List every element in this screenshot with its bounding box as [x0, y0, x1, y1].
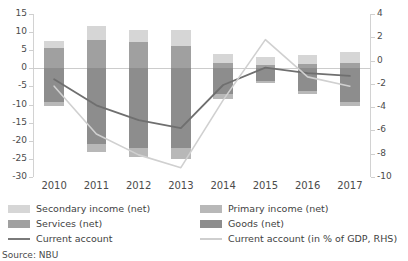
right-tick-label: 2 — [377, 32, 383, 41]
right-tick-label: 0 — [377, 56, 383, 65]
legend-item-primary-income[interactable]: Primary income (net) — [200, 203, 329, 214]
legend-item-current-account[interactable]: Current account — [8, 233, 113, 244]
left-tick-label: 0 — [21, 63, 27, 72]
x-tick-label: 2015 — [253, 180, 278, 192]
right-tick-mark — [371, 154, 375, 155]
legend-label: Current account (in % of GDP, RHS) — [228, 233, 397, 244]
legend-item-services[interactable]: Services (net) — [8, 218, 102, 229]
legend-swatch-icon — [200, 205, 222, 213]
chart-figure: 151050-5-10-15-20-25-30 420-2-4-6-8-10 2… — [0, 0, 408, 261]
right-tick-label: -6 — [377, 125, 386, 134]
legend-swatch-icon — [8, 220, 30, 228]
right-tick-mark — [371, 130, 375, 131]
x-tick-label: 2013 — [168, 180, 193, 192]
right-tick-label: -4 — [377, 102, 386, 111]
right-tick-label: 4 — [377, 9, 383, 18]
right-tick-label: -10 — [377, 172, 392, 181]
right-tick-mark — [371, 177, 375, 178]
right-tick-mark — [371, 84, 375, 85]
right-tick-label: -2 — [377, 79, 386, 88]
legend-line-icon — [8, 238, 30, 240]
left-tick-label: -5 — [18, 81, 27, 90]
left-tick-label: 10 — [16, 27, 27, 36]
left-tick-mark — [29, 177, 33, 178]
legend-label: Primary income (net) — [228, 203, 329, 214]
plot-area: 151050-5-10-15-20-25-30 420-2-4-6-8-10 — [33, 14, 371, 177]
legend-label: Current account — [36, 233, 113, 244]
right-tick-mark — [371, 37, 375, 38]
right-tick-label: -8 — [377, 149, 386, 158]
x-axis-labels: 20102011201220132014201520162017 — [33, 180, 371, 194]
legend-item-secondary-income[interactable]: Secondary income (net) — [8, 203, 150, 214]
x-tick-label: 2016 — [295, 180, 320, 192]
legend-label: Goods (net) — [228, 218, 284, 229]
right-tick-mark — [371, 61, 375, 62]
line-series-group — [33, 14, 371, 177]
left-tick-label: -15 — [12, 118, 27, 127]
legend-swatch-icon — [8, 205, 30, 213]
line-path — [54, 40, 350, 168]
x-tick-label: 2012 — [126, 180, 151, 192]
chart-legend: Secondary income (net) Services (net) Cu… — [8, 203, 400, 247]
x-tick-label: 2011 — [84, 180, 109, 192]
x-tick-label: 2014 — [210, 180, 235, 192]
left-tick-label: -20 — [12, 136, 27, 145]
legend-line-icon — [200, 238, 222, 240]
left-tick-label: 5 — [21, 45, 27, 54]
right-tick-mark — [371, 107, 375, 108]
x-tick-label: 2010 — [41, 180, 66, 192]
source-note: Source: NBU — [2, 250, 58, 260]
legend-item-current-account-pct-gdp[interactable]: Current account (in % of GDP, RHS) — [200, 233, 397, 244]
right-tick-mark — [371, 14, 375, 15]
legend-item-goods[interactable]: Goods (net) — [200, 218, 284, 229]
left-tick-label: 15 — [16, 9, 27, 18]
legend-label: Services (net) — [36, 218, 102, 229]
x-tick-label: 2017 — [337, 180, 362, 192]
left-tick-label: -30 — [12, 172, 27, 181]
legend-swatch-icon — [200, 220, 222, 228]
left-tick-label: -25 — [12, 154, 27, 163]
left-tick-label: -10 — [12, 100, 27, 109]
legend-label: Secondary income (net) — [36, 203, 150, 214]
line-path — [54, 68, 350, 128]
